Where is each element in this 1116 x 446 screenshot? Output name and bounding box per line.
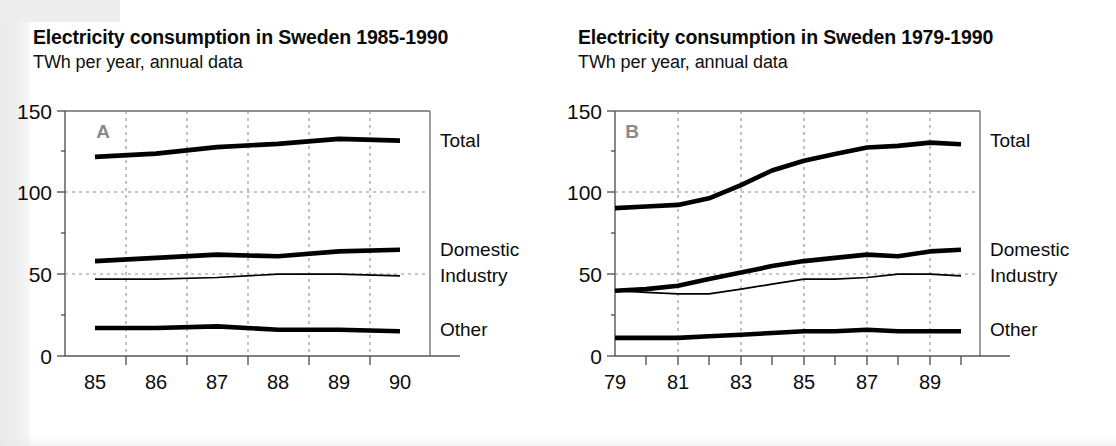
chart-subtitle-a: TWh per year, annual data	[33, 52, 243, 73]
x-tick-label-86-a: 86	[145, 371, 167, 393]
x-tick-label-89-b: 89	[919, 371, 941, 393]
x-tick-label-85-b: 85	[793, 371, 815, 393]
x-tick-label-81-b: 81	[667, 371, 689, 393]
x-tick-label-90-a: 90	[389, 371, 411, 393]
y-tick-label-100-a: 100	[17, 181, 52, 204]
y-tick-label-150-b: 150	[567, 100, 602, 123]
panel-letter-b: B	[625, 121, 639, 142]
figure-page: Electricity consumption in Sweden 1985-1…	[0, 0, 1116, 446]
legend-label-total-b: Total	[990, 130, 1030, 151]
plot-area-a: 150 100 50 0 85	[0, 84, 560, 444]
x-tick-label-83-b: 83	[730, 371, 752, 393]
legend-label-other-b: Other	[990, 319, 1038, 340]
plot-area-b: 150 100 50 0	[548, 84, 1116, 444]
legend-label-industry-a: Industry	[440, 265, 508, 286]
series-line-domestic-b	[615, 250, 961, 291]
y-tick-label-0-b: 0	[590, 345, 602, 368]
chart-subtitle-b: TWh per year, annual data	[578, 52, 788, 73]
y-tick-label-150-a: 150	[17, 100, 52, 123]
x-tick-label-85-a: 85	[84, 371, 106, 393]
y-tick-label-50-b: 50	[579, 263, 602, 286]
legend-label-domestic-b: Domestic	[990, 239, 1069, 260]
series-line-industry-b	[615, 274, 961, 294]
line-chart-b: 150 100 50 0	[548, 84, 1116, 444]
chart-panel-b: Electricity consumption in Sweden 1979-1…	[548, 0, 1116, 446]
legend-label-industry-b: Industry	[990, 265, 1058, 286]
series-line-total-b	[615, 143, 961, 209]
page-title-a: Electricity consumption in Sweden 1985-1…	[33, 26, 448, 49]
y-tick-label-50-a: 50	[29, 263, 52, 286]
x-tick-label-79-b: 79	[604, 371, 626, 393]
scan-bottom-smudge	[0, 436, 1116, 446]
x-tick-label-87-a: 87	[206, 371, 228, 393]
legend-label-total-a: Total	[440, 130, 480, 151]
line-chart-a: 150 100 50 0 85	[0, 84, 560, 444]
page-title-b: Electricity consumption in Sweden 1979-1…	[578, 26, 993, 49]
panel-letter-a: A	[96, 121, 110, 142]
x-tick-label-89-a: 89	[328, 371, 350, 393]
y-tick-label-0-a: 0	[40, 345, 52, 368]
series-line-other-b	[615, 330, 961, 338]
x-tick-label-87-b: 87	[856, 371, 878, 393]
x-tick-label-88-a: 88	[267, 371, 289, 393]
chart-panel-a: Electricity consumption in Sweden 1985-1…	[0, 0, 560, 446]
legend-label-domestic-a: Domestic	[440, 239, 519, 260]
y-tick-label-100-b: 100	[567, 181, 602, 204]
legend-label-other-a: Other	[440, 319, 488, 340]
